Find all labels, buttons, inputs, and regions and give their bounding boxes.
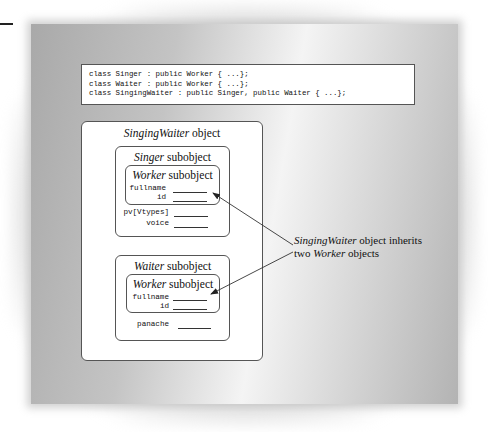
annotation-italic: SingingWaiter: [294, 234, 357, 246]
annotation-italic: Worker: [313, 247, 345, 259]
annotation-start: two: [294, 247, 313, 259]
arrow-to-singer-worker: [213, 193, 293, 245]
annotation-rest: object inherits: [357, 234, 422, 246]
annotation-text: SingingWaiter object inherits two Worker…: [294, 234, 422, 259]
annotation-line-1: SingingWaiter object inherits: [294, 234, 422, 247]
arrow-to-waiter-worker: [211, 252, 293, 294]
annotation-rest: objects: [345, 247, 379, 259]
annotation-line-2: two Worker objects: [294, 247, 422, 260]
arrows: [0, 0, 488, 432]
